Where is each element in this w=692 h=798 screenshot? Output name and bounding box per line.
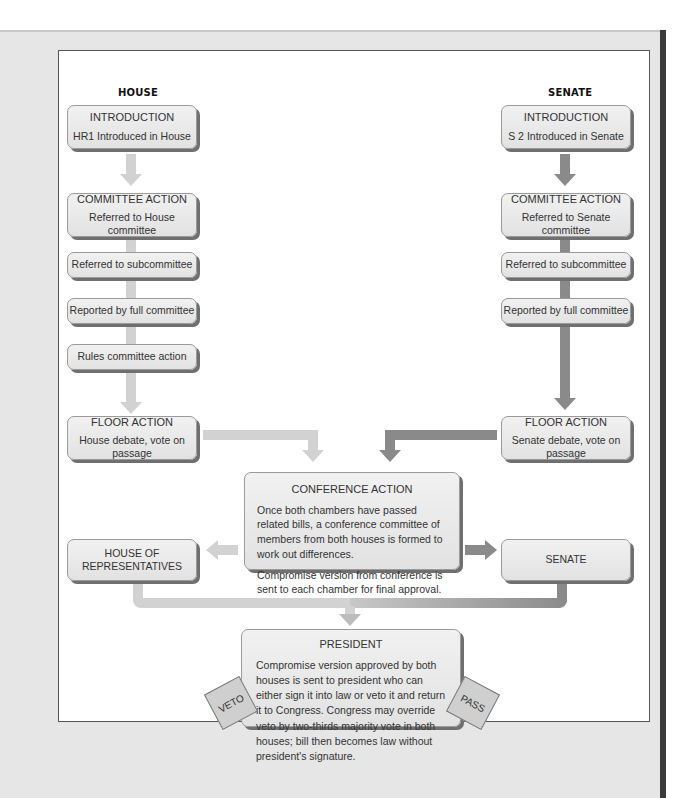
- president-description: Compromise version approved by both hous…: [256, 658, 446, 765]
- house-introduction-title: INTRODUCTION: [90, 111, 174, 125]
- senate-introduction-text: S 2 Introduced in Senate: [508, 130, 624, 143]
- house-arrow-intro-committee: [126, 154, 136, 174]
- house-floor-title: FLOOR ACTION: [91, 416, 173, 430]
- to-president-stem: [345, 606, 355, 614]
- senate-introduction-title: INTRODUCTION: [524, 111, 608, 125]
- senate-reported-text: Reported by full committee: [504, 304, 629, 317]
- conference-action-box: CONFERENCE ACTION Once both chambers hav…: [244, 472, 460, 570]
- senate-reported-box: Reported by full committee: [501, 298, 631, 324]
- veto-label: VETO: [216, 692, 245, 714]
- conference-to-senate-arrow: [465, 545, 485, 555]
- conference-description: Once both chambers have passed related b…: [257, 503, 447, 562]
- senate-to-conference-arrowhead: [379, 450, 401, 462]
- president-box: PRESIDENT Compromise version approved by…: [241, 629, 461, 727]
- to-president-arrowhead: [339, 614, 361, 626]
- senate-floor-text: Senate debate, vote on passage: [502, 434, 630, 460]
- conference-title: CONFERENCE ACTION: [257, 483, 447, 497]
- senate-arrowhead: [554, 398, 576, 410]
- house-arrowhead: [120, 402, 142, 414]
- house-subcommittee-text: Referred to subcommittee: [72, 258, 193, 271]
- conference-to-senate-arrowhead: [485, 540, 497, 560]
- senate-arrowhead: [554, 174, 576, 186]
- house-reported-box: Reported by full committee: [67, 298, 197, 324]
- senate-final-text: SENATE: [545, 553, 586, 566]
- house-to-president-bar: [133, 598, 350, 608]
- house-subcommittee-box: Referred to subcommittee: [67, 252, 197, 278]
- conference-to-house-arrowhead: [206, 540, 218, 560]
- house-introduction-box: INTRODUCTION HR1 Introduced in House: [67, 105, 197, 149]
- conference-compromise-note: Compromise version from conference is se…: [257, 568, 447, 597]
- house-floor-text: House debate, vote on passage: [68, 434, 196, 460]
- house-introduction-text: HR1 Introduced in House: [73, 130, 191, 143]
- senate-subcommittee-text: Referred to subcommittee: [506, 258, 627, 271]
- president-title: PRESIDENT: [256, 638, 446, 652]
- senate-committee-box: COMMITTEE ACTION Referred to Senate comm…: [501, 193, 631, 237]
- house-committee-text: Referred to House committee: [68, 211, 196, 237]
- senate-introduction-box: INTRODUCTION S 2 Introduced in Senate: [501, 105, 631, 149]
- senate-floor-title: FLOOR ACTION: [525, 416, 607, 430]
- house-rules-text: Rules committee action: [77, 350, 186, 363]
- house-committee-box: COMMITTEE ACTION Referred to House commi…: [67, 193, 197, 237]
- senate-floor-box: FLOOR ACTION Senate debate, vote on pass…: [501, 416, 631, 460]
- house-arrowhead: [120, 174, 142, 186]
- house-column-header: HOUSE: [118, 87, 158, 98]
- senate-committee-title: COMMITTEE ACTION: [511, 193, 621, 207]
- page-edge-bar: [660, 30, 666, 798]
- senate-subcommittee-box: Referred to subcommittee: [501, 252, 631, 278]
- house-floor-box: FLOOR ACTION House debate, vote on passa…: [67, 416, 197, 460]
- senate-to-conference-arrow: [385, 430, 497, 440]
- senate-arrow-intro-committee: [560, 154, 570, 174]
- top-rule: [0, 30, 662, 32]
- conference-to-house-arrow: [218, 545, 238, 555]
- house-rules-box: Rules committee action: [67, 344, 197, 370]
- house-committee-title: COMMITTEE ACTION: [77, 193, 187, 207]
- house-to-conference-arrowhead: [302, 450, 324, 462]
- house-of-representatives-text: HOUSE OF REPRESENTATIVES: [82, 547, 182, 573]
- house-to-conference-arrow: [203, 430, 318, 440]
- house-reported-text: Reported by full committee: [70, 304, 195, 317]
- house-to-conference-arrow-down: [308, 430, 318, 450]
- senate-to-president-bar: [350, 598, 567, 608]
- senate-committee-text: Referred to Senate committee: [502, 211, 630, 237]
- pass-label: PASS: [459, 692, 487, 714]
- senate-to-conference-arrow-down: [385, 430, 395, 450]
- house-of-representatives-box: HOUSE OF REPRESENTATIVES: [67, 539, 197, 581]
- senate-column-header: SENATE: [548, 87, 592, 98]
- senate-final-box: SENATE: [501, 539, 631, 581]
